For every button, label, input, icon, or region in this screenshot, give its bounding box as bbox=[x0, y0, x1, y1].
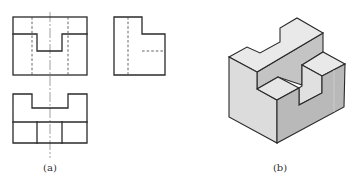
label-b: (b) bbox=[273, 162, 287, 173]
isometric-view: (b) bbox=[229, 18, 345, 173]
drawing-canvas: (a) (b) bbox=[0, 0, 354, 185]
orthographic-views: (a) bbox=[13, 12, 165, 173]
side-view-outline bbox=[114, 17, 165, 75]
label-a: (a) bbox=[43, 162, 57, 173]
side-view bbox=[114, 17, 165, 75]
